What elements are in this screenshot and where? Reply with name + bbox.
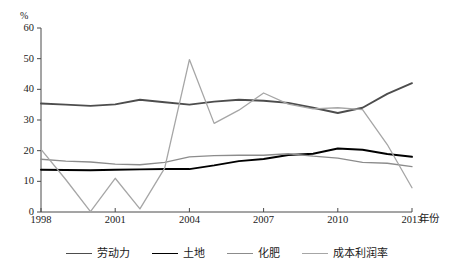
legend-item[interactable]: 成本利润率: [302, 247, 388, 259]
line-chart: % 0102030405060 199820012004200720102013…: [0, 0, 453, 270]
y-axis-tick-label: 60: [14, 22, 34, 33]
chart-legend: 劳动力土地化肥成本利润率: [0, 243, 453, 263]
legend-label: 成本利润率: [333, 247, 388, 259]
x-axis-tick-label: 2010: [318, 214, 358, 225]
legend-swatch-icon: [66, 253, 92, 254]
legend-label: 土地: [183, 247, 205, 259]
x-axis-tick-label: 2007: [244, 214, 284, 225]
y-axis-tick-label: 30: [14, 114, 34, 125]
x-axis-tick-label: 2004: [169, 214, 209, 225]
y-axis-tick-label: 10: [14, 175, 34, 186]
axis-lines: [41, 28, 412, 212]
y-axis-tick-label: 50: [14, 53, 34, 64]
legend-swatch-icon: [227, 253, 253, 254]
y-axis-tick-label: 20: [14, 145, 34, 156]
data-series-group: [41, 60, 412, 212]
legend-item[interactable]: 劳动力: [66, 247, 130, 259]
x-axis-title: 年份: [419, 213, 439, 224]
y-axis-tick-label: 40: [14, 83, 34, 94]
legend-swatch-icon: [152, 253, 178, 254]
x-axis-ticks: [41, 208, 412, 212]
x-axis-tick-label: 1998: [21, 214, 61, 225]
legend-item[interactable]: 土地: [152, 247, 205, 259]
chart-plot-area: [0, 0, 453, 270]
legend-swatch-icon: [302, 253, 328, 254]
y-axis-ticks: [37, 28, 41, 212]
series-line: [41, 149, 412, 171]
x-axis-tick-label: 2001: [95, 214, 135, 225]
legend-label: 化肥: [258, 247, 280, 259]
legend-label: 劳动力: [97, 247, 130, 259]
legend-item[interactable]: 化肥: [227, 247, 280, 259]
series-line: [41, 154, 412, 167]
series-line: [41, 60, 412, 212]
